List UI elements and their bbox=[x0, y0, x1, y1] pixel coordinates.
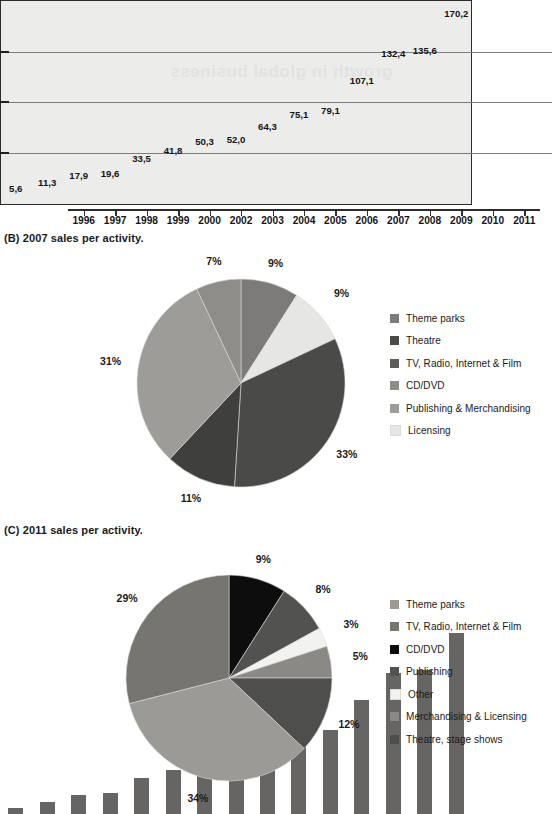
legend-item: TV, Radio, Internet & Film bbox=[390, 356, 531, 370]
legend-swatch bbox=[390, 404, 399, 413]
legend-2007: Theme parksTheatreTV, Radio, Internet & … bbox=[390, 311, 531, 446]
legend-swatch bbox=[390, 735, 399, 744]
bar-value-label: 19,6 bbox=[88, 168, 132, 179]
legend-label: Theatre, stage shows bbox=[406, 734, 503, 745]
pie-value-label: 8% bbox=[309, 583, 337, 595]
bar bbox=[71, 795, 86, 814]
legend-item: Merchandising & Licensing bbox=[390, 710, 527, 724]
legend-label: CD/DVD bbox=[406, 380, 445, 391]
legend-item: Other bbox=[390, 687, 527, 701]
bar-value-label: 170,2 bbox=[434, 8, 478, 19]
legend-swatch bbox=[390, 667, 399, 676]
legend-label: Publishing bbox=[406, 666, 453, 677]
pie-value-label: 9% bbox=[249, 553, 277, 565]
legend-label: Other bbox=[408, 689, 433, 700]
bar-value-label: 107,1 bbox=[340, 75, 384, 86]
legend-label: Theme parks bbox=[406, 313, 465, 324]
pie-chart-2007 bbox=[135, 277, 347, 489]
pie-value-label: 29% bbox=[113, 592, 141, 604]
legend-label: Theatre bbox=[406, 335, 441, 346]
legend-item: Theme parks bbox=[390, 311, 531, 325]
legend-item: CD/DVD bbox=[390, 379, 531, 393]
legend-label: TV, Radio, Internet & Film bbox=[406, 621, 521, 632]
pie-value-label: 7% bbox=[200, 255, 228, 267]
legend-swatch bbox=[390, 689, 401, 700]
pie-value-label: 5% bbox=[346, 650, 374, 662]
pie-value-label: 9% bbox=[328, 287, 356, 299]
legend-label: Publishing & Merchandising bbox=[406, 403, 531, 414]
bar bbox=[103, 793, 118, 814]
pie-value-label: 11% bbox=[177, 492, 205, 504]
legend-item: Theme parks bbox=[390, 597, 527, 611]
legend-swatch bbox=[390, 712, 399, 721]
bar-value-label: 64,3 bbox=[245, 121, 289, 132]
legend-swatch bbox=[390, 336, 399, 345]
legend-swatch bbox=[390, 645, 399, 654]
pie-value-label: 33% bbox=[333, 448, 361, 460]
bar bbox=[8, 808, 23, 814]
legend-label: Theme parks bbox=[406, 599, 465, 610]
bar-value-label: 135,6 bbox=[403, 45, 447, 56]
legend-item: Theatre, stage shows bbox=[390, 732, 527, 746]
legend-swatch bbox=[390, 314, 399, 323]
legend-item: Theatre bbox=[390, 334, 531, 348]
legend-swatch bbox=[390, 425, 401, 436]
pie-value-label: 12% bbox=[335, 718, 363, 730]
x-axis-label: 2011 bbox=[502, 215, 546, 226]
bar bbox=[134, 778, 149, 814]
pie-value-label: 34% bbox=[184, 792, 212, 804]
legend-label: CD/DVD bbox=[406, 644, 445, 655]
bar-value-label: 52,0 bbox=[214, 134, 258, 145]
bar-chart-plot-area: growth in global business 5,611,317,919,… bbox=[0, 0, 472, 205]
legend-2011: Theme parksTV, Radio, Internet & FilmCD/… bbox=[390, 597, 527, 755]
legend-label: Licensing bbox=[408, 425, 451, 436]
legend-label: Merchandising & Licensing bbox=[406, 711, 527, 722]
legend-item: TV, Radio, Internet & Film bbox=[390, 620, 527, 634]
caption-c: (C) 2011 sales per activity. bbox=[4, 524, 143, 536]
pie-chart-2011 bbox=[124, 573, 334, 783]
legend-item: Publishing bbox=[390, 665, 527, 679]
pie-value-label: 9% bbox=[262, 257, 290, 269]
figure-page: growth in global business 5,611,317,919,… bbox=[0, 0, 552, 814]
legend-swatch bbox=[390, 381, 399, 390]
bar bbox=[354, 700, 369, 814]
pie-value-label: 31% bbox=[97, 355, 125, 367]
bar-value-label: 79,1 bbox=[308, 105, 352, 116]
legend-label: TV, Radio, Internet & Film bbox=[406, 358, 521, 369]
legend-swatch bbox=[390, 600, 399, 609]
legend-swatch bbox=[390, 622, 399, 631]
pie-value-label: 3% bbox=[337, 618, 365, 630]
legend-item: Publishing & Merchandising bbox=[390, 401, 531, 415]
legend-item: Licensing bbox=[390, 424, 531, 438]
bar bbox=[40, 802, 55, 814]
legend-swatch bbox=[390, 359, 399, 368]
legend-item: CD/DVD bbox=[390, 642, 527, 656]
caption-b: (B) 2007 sales per activity. bbox=[4, 232, 144, 244]
